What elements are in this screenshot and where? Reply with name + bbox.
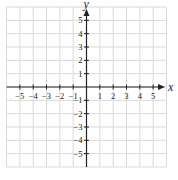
y-tick-label: −4 bbox=[73, 135, 83, 145]
x-tick-label: 3 bbox=[124, 91, 128, 101]
x-tick-label: 1 bbox=[98, 91, 102, 101]
y-tick-label: −1 bbox=[73, 95, 82, 105]
x-tick-label: 5 bbox=[151, 91, 155, 101]
y-tick-label: −2 bbox=[73, 109, 82, 119]
x-tick-label: −3 bbox=[42, 91, 51, 101]
y-tick-label: 3 bbox=[78, 42, 82, 52]
axes: x y bbox=[7, 0, 174, 167]
y-tick-label: −3 bbox=[73, 122, 82, 132]
y-tick-label: 2 bbox=[78, 55, 82, 65]
y-tick-label: −5 bbox=[73, 149, 82, 159]
x-axis-label: x bbox=[167, 80, 174, 94]
x-tick-label: −5 bbox=[15, 91, 24, 101]
x-tick-label: −2 bbox=[55, 91, 64, 101]
y-tick-label: 5 bbox=[78, 15, 82, 25]
x-tick-label: 4 bbox=[138, 91, 143, 101]
y-tick-label: 1 bbox=[78, 69, 82, 79]
x-tick-label: 2 bbox=[111, 91, 115, 101]
x-axis-arrow-icon bbox=[158, 84, 165, 90]
x-tick-label: −4 bbox=[29, 91, 39, 101]
coordinate-plane: x y −5−4−3−2−11234554321−1−2−3−4−5 bbox=[0, 0, 178, 180]
y-axis-label: y bbox=[83, 0, 90, 11]
